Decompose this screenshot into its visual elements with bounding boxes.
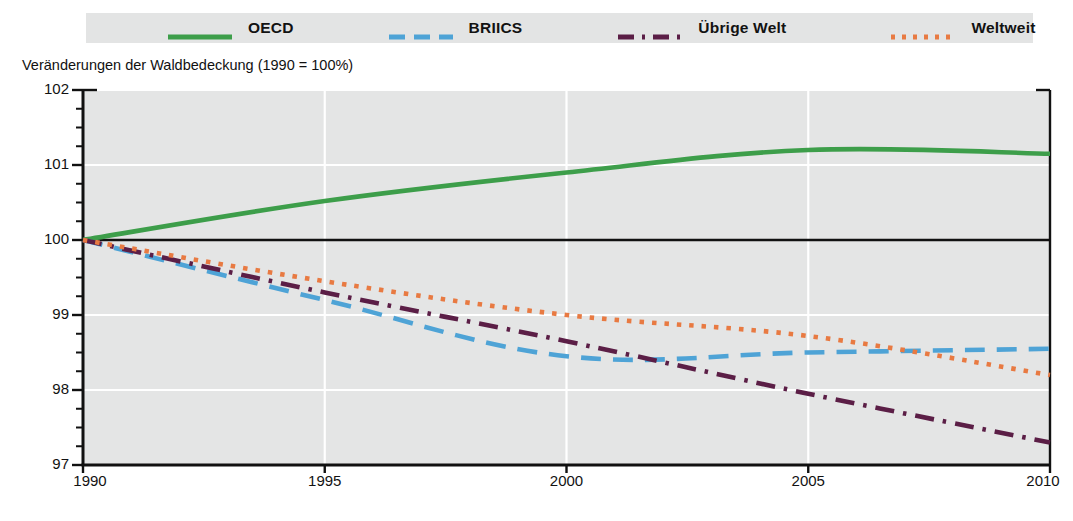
- x-tick-label: 2000: [532, 472, 602, 489]
- y-tick-label: 97: [23, 455, 69, 472]
- x-tick-label: 2010: [1008, 472, 1073, 489]
- y-tick-label: 99: [23, 305, 69, 322]
- x-tick-label: 1990: [55, 472, 125, 489]
- x-tick-label: 1995: [290, 472, 360, 489]
- y-tick-label: 101: [23, 155, 69, 172]
- y-tick-label: 102: [23, 80, 69, 97]
- forest-cover-chart: OECD BRIICS Übrige Welt Weltweit Verände…: [0, 0, 1073, 521]
- x-tick-label: 2005: [773, 472, 843, 489]
- y-tick-label: 100: [23, 230, 69, 247]
- plot-canvas: [0, 0, 1073, 521]
- plot-area: 97989910010110219901995200020052010: [0, 0, 1073, 521]
- y-tick-label: 98: [23, 380, 69, 397]
